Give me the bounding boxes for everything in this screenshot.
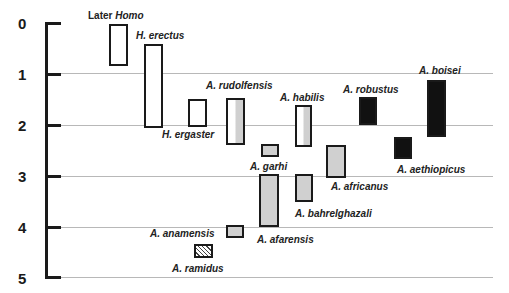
bar-later-homo [109,24,128,66]
bar-a-garhi [261,144,279,157]
y-tick-label-2: 2 [18,118,38,133]
label-a-rudolfensis: A. rudolfensis [206,80,273,91]
label-a-ramidus: A. ramidus [172,263,224,274]
label-a-garhi: A. garhi [250,161,287,172]
bar-a-robustus [359,97,377,125]
label-h-erectus: H. erectus [136,30,184,41]
label-a-habilis: A. habilis [280,92,324,103]
label-later-homo: Later Homo [88,10,144,21]
label-h-ergaster: H. ergaster [162,129,214,140]
label-a-boisei: A. boisei [419,65,461,76]
bar-a-rudolfensis [226,98,245,145]
y-tick-label-3: 3 [18,169,38,184]
y-tick-4 [45,226,61,229]
bar-a-ramidus [194,244,213,258]
label-a-robustus: A. robustus [343,84,399,95]
y-tick-label-0: 0 [18,16,38,31]
bar-a-aethiopicus [394,137,412,159]
y-tick-label-1: 1 [18,67,38,82]
label-a-africanus: A. africanus [331,181,388,192]
label-later-homo-italic: Homo [115,10,143,21]
y-tick-3 [45,175,61,178]
bar-a-bahrelghazali [295,174,313,202]
bar-a-anamensis [226,225,244,238]
label-later-homo-prefix: Later [88,10,115,21]
bar-a-habilis [295,105,312,147]
label-a-aethiopicus: A. aethiopicus [397,164,465,175]
bar-a-afarensis [259,174,279,227]
y-tick-0 [45,22,61,25]
y-tick-2 [45,124,61,127]
y-tick-5 [45,276,61,279]
bar-h-erectus [144,44,163,128]
hominin-time-range-chart: 0 1 2 3 4 5 Later Homo H. erectus H. erg… [0,0,509,293]
y-tick-label-5: 5 [18,271,38,286]
y-axis-line [45,22,48,279]
label-a-bahrelghazali: A. bahrelghazali [295,208,372,219]
gridline-4 [61,227,493,228]
y-tick-1 [45,73,61,76]
gridline-5 [61,277,493,278]
label-a-anamensis: A. anamensis [150,228,214,239]
y-tick-label-4: 4 [18,220,38,235]
bar-a-africanus [326,145,346,178]
label-a-afarensis: A. afarensis [257,234,314,245]
bar-a-boisei [427,80,446,137]
bar-h-ergaster [188,99,207,127]
